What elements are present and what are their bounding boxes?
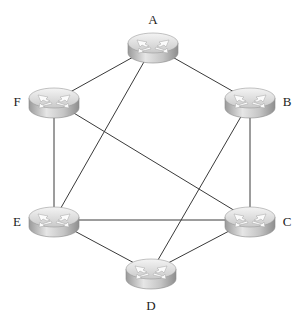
router-node-f: F [13,88,79,118]
router-node-c: C [225,207,291,237]
router-node-d: D [126,259,176,313]
router-label-e: E [13,214,21,229]
router-node-e: E [13,207,79,237]
router-icon [128,33,178,63]
router-label-f: F [13,94,20,109]
router-node-b: B [225,88,292,118]
links [54,46,250,272]
router-icon [225,88,275,118]
router-label-c: C [283,214,292,229]
router-icon [29,88,79,118]
router-icon [126,259,176,289]
link-f-c [54,101,250,220]
router-label-d: D [146,298,155,313]
router-label-b: B [283,94,292,109]
router-label-a: A [148,12,158,27]
router-icon [225,207,275,237]
router-node-a: A [128,12,178,63]
router-icon [29,207,79,237]
network-diagram: ABCDEF [0,0,304,320]
link-a-e [54,46,153,220]
